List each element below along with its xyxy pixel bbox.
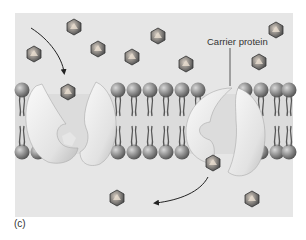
solute-molecule xyxy=(151,28,165,44)
solute-molecule xyxy=(27,46,41,62)
solute-molecule xyxy=(125,49,139,65)
solute-molecule xyxy=(61,84,75,100)
solute-molecule xyxy=(252,54,266,70)
panel-label: (c) xyxy=(14,218,26,229)
carrier-protein-label: Carrier protein xyxy=(207,36,268,47)
solute-molecule xyxy=(179,56,193,72)
solute-molecule xyxy=(269,22,283,38)
solute-molecule xyxy=(110,190,124,206)
solute-molecule xyxy=(91,41,105,57)
solute-molecule xyxy=(206,155,220,171)
solute-molecule xyxy=(245,191,259,207)
solute-molecule xyxy=(67,19,81,35)
